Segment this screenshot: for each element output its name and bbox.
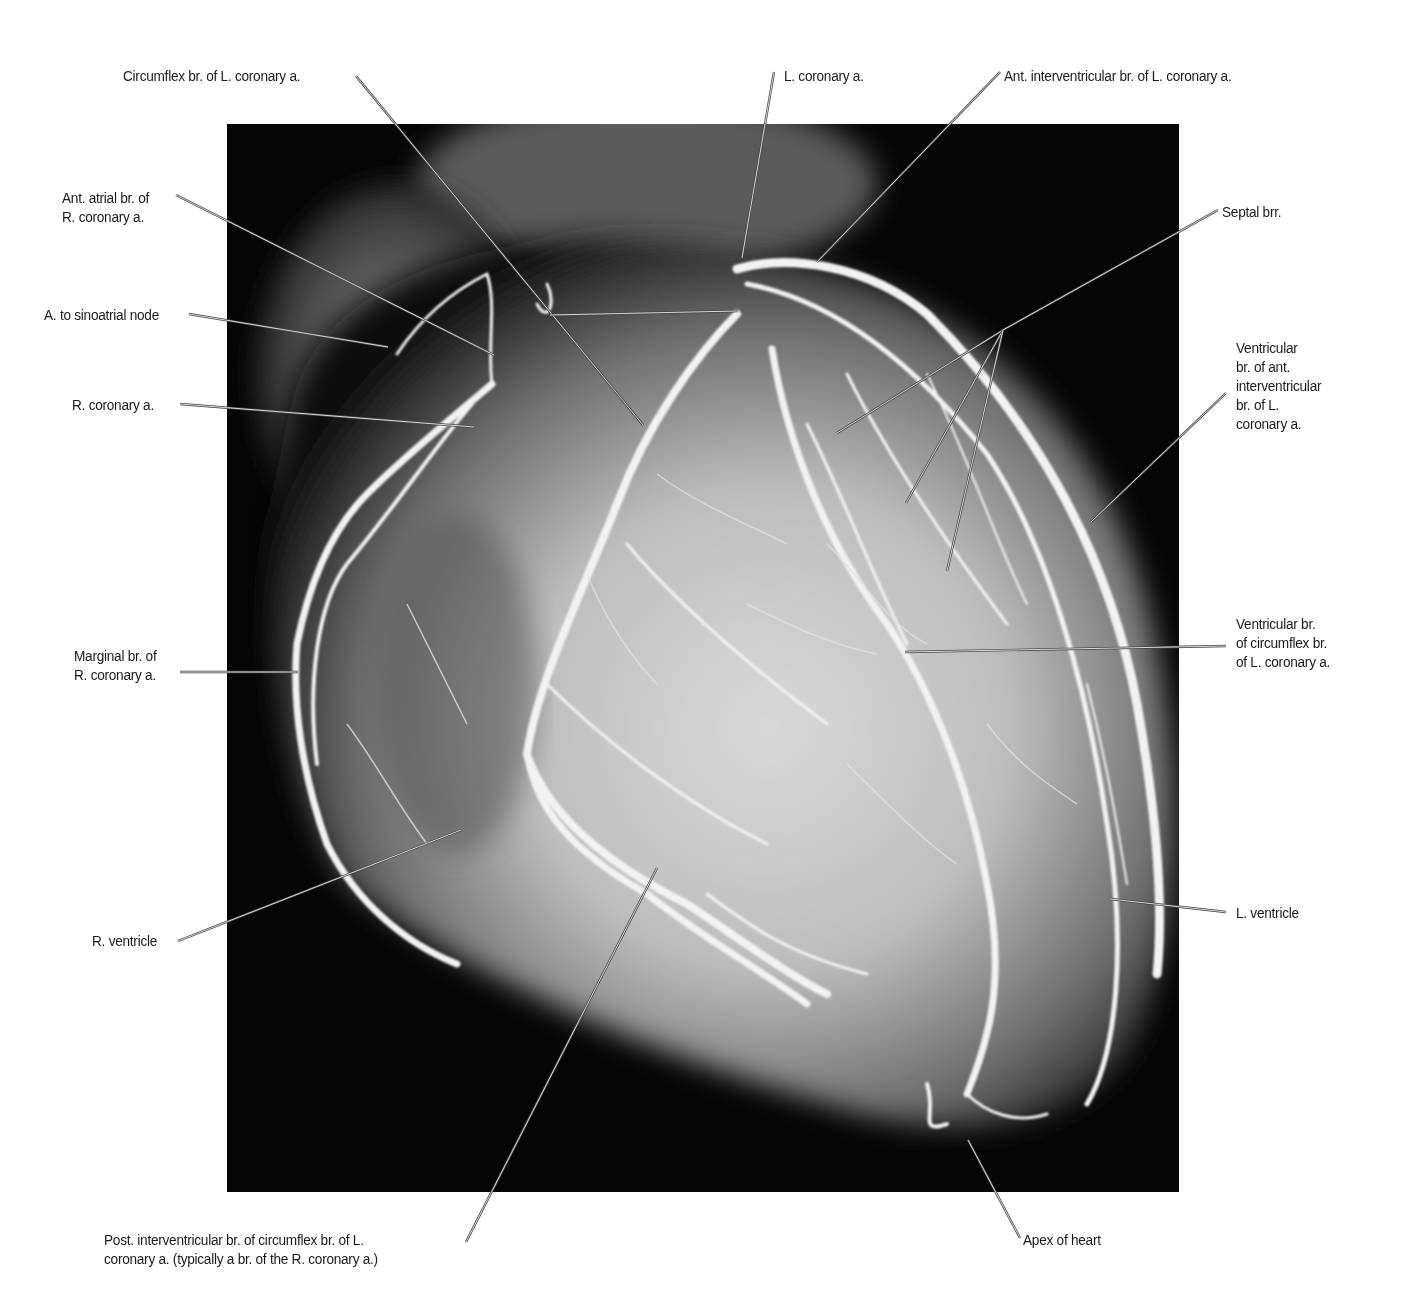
label-ventricular-circumflex: Ventricular br. of circumflex br. of L. … <box>1236 614 1330 671</box>
label-marginal: Marginal br. of R. coronary a. <box>74 646 156 684</box>
label-post-interventricular: Post. interventricular br. of circumflex… <box>104 1230 378 1268</box>
label-text: br. of ant. <box>1236 357 1321 376</box>
label-ant-atrial: Ant. atrial br. of R. coronary a. <box>62 188 149 226</box>
radiograph-image <box>227 124 1179 1192</box>
label-text: A. to sinoatrial node <box>44 306 159 323</box>
label-text: of circumflex br. <box>1236 633 1330 652</box>
label-ant-interventricular: Ant. interventricular br. of L. coronary… <box>1004 66 1231 85</box>
label-text: Ventricular br. <box>1236 614 1330 633</box>
label-text: coronary a. (typically a br. of the R. c… <box>104 1249 378 1268</box>
label-text: Ant. atrial br. of <box>62 188 149 207</box>
label-l-coronary: L. coronary a. <box>784 66 864 85</box>
label-text: Ventricular <box>1236 338 1321 357</box>
label-text: R. coronary a. <box>62 207 149 226</box>
label-text: R. coronary a. <box>72 396 154 413</box>
label-r-ventricle: R. ventricle <box>92 931 157 950</box>
label-circumflex: Circumflex br. of L. coronary a. <box>123 66 300 85</box>
label-text: L. coronary a. <box>784 67 864 84</box>
label-text: interventricular <box>1236 376 1321 395</box>
label-text: R. coronary a. <box>74 665 156 684</box>
label-r-coronary: R. coronary a. <box>72 395 154 414</box>
label-text: Apex of heart <box>1023 1231 1101 1248</box>
label-text: R. ventricle <box>92 932 157 949</box>
label-text: coronary a. <box>1236 414 1321 433</box>
label-sinoatrial: A. to sinoatrial node <box>44 305 159 324</box>
label-text: Ant. interventricular br. of L. coronary… <box>1004 67 1231 84</box>
label-apex: Apex of heart <box>1023 1230 1101 1249</box>
label-l-ventricle: L. ventricle <box>1236 903 1299 922</box>
label-text: Marginal br. of <box>74 646 156 665</box>
label-text: of L. coronary a. <box>1236 652 1330 671</box>
label-text: Septal brr. <box>1222 203 1281 220</box>
heart-radiograph-illustration <box>227 124 1179 1192</box>
label-text: Post. interventricular br. of circumflex… <box>104 1230 378 1249</box>
label-septal: Septal brr. <box>1222 202 1281 221</box>
label-text: L. ventricle <box>1236 904 1299 921</box>
label-text: Circumflex br. of L. coronary a. <box>123 67 300 84</box>
label-ventricular-ant-interventricular: Ventricular br. of ant. interventricular… <box>1236 338 1321 433</box>
label-text: br. of L. <box>1236 395 1321 414</box>
